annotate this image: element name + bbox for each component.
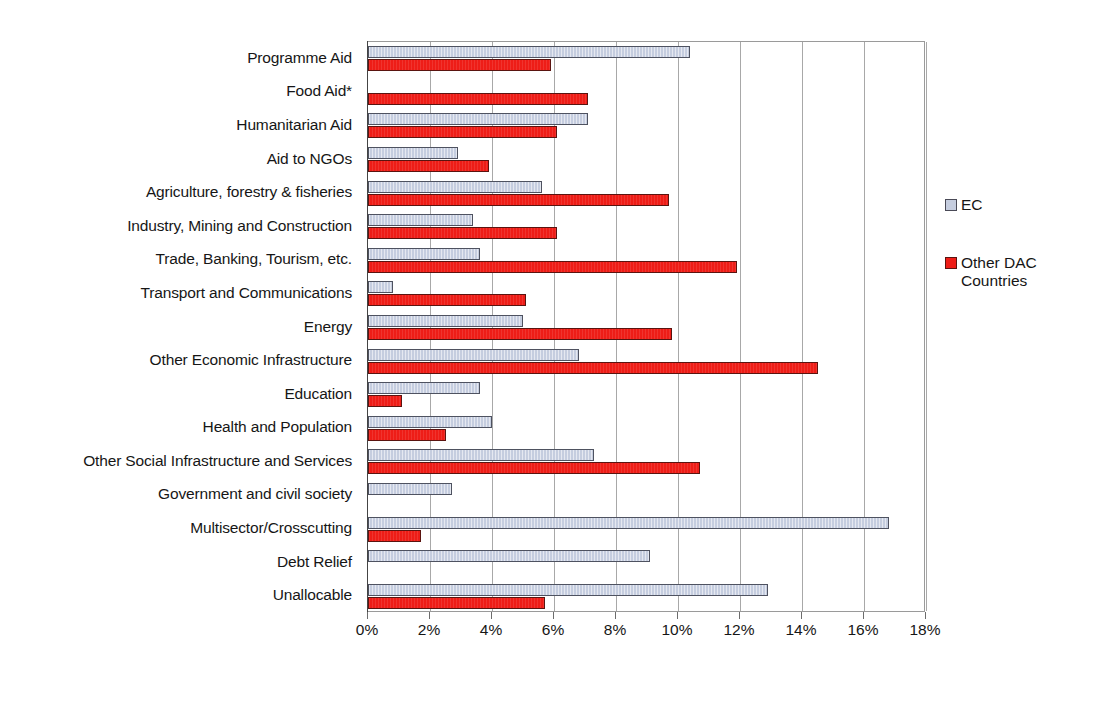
y-axis-label: Food Aid* [286,83,352,99]
x-axis-tick [863,612,864,619]
bar-ec [368,449,594,461]
y-axis-label: Aid to NGOs [267,151,352,167]
bar-ec [368,181,542,193]
y-axis-label: Education [284,386,352,402]
legend-label-other-dac-countries: Other DAC Countries [961,254,1037,290]
bar-group [368,109,924,143]
bar-ec [368,113,588,125]
y-axis-label: Programme Aid [247,50,352,66]
x-axis-tick [615,612,616,619]
bar-group [368,210,924,244]
bar-other-dac-countries [368,362,818,374]
x-axis-tick [429,612,430,619]
bar-group [368,344,924,378]
x-axis-tick [491,612,492,619]
bar-group [368,244,924,278]
bar-ec [368,315,523,327]
bar-group [368,546,924,580]
y-axis-label: Other Economic Infrastructure [150,352,352,368]
bar-group [368,479,924,513]
x-axis-tick [367,612,368,619]
bar-other-dac-countries [368,126,557,138]
x-axis-tick-label: 0% [356,622,378,638]
bar-other-dac-countries [368,59,551,71]
y-axis-label: Agriculture, forestry & fisheries [146,184,352,200]
bar-other-dac-countries [368,194,669,206]
bar-other-dac-countries [368,429,446,441]
bar-group [368,143,924,177]
plot-area [367,41,925,612]
bar-group [368,176,924,210]
bar-group [368,311,924,345]
bar-ec [368,349,579,361]
x-axis-tick [677,612,678,619]
legend-label-ec: EC [961,196,983,214]
bar-ec [368,584,768,596]
bar-other-dac-countries [368,93,588,105]
bar-other-dac-countries [368,160,489,172]
legend-item-ec: EC [945,196,983,214]
y-axis-label: Government and civil society [158,486,352,502]
x-axis-tick-label: 16% [847,622,878,638]
y-axis-label: Trade, Banking, Tourism, etc. [156,251,352,267]
bar-ec [368,382,480,394]
bar-ec [368,46,690,58]
bar-ec [368,416,492,428]
bar-ec [368,147,458,159]
y-axis-label: Humanitarian Aid [236,117,352,133]
x-axis-tick-label: 10% [661,622,692,638]
bar-other-dac-countries [368,261,737,273]
x-axis-tick-label: 6% [542,622,564,638]
bar-other-dac-countries [368,395,402,407]
bar-other-dac-countries [368,227,557,239]
x-axis-tick-label: 4% [480,622,502,638]
bar-group [368,277,924,311]
bar-group [368,76,924,110]
y-axis-label: Other Social Infrastructure and Services [83,453,352,469]
bar-other-dac-countries [368,462,700,474]
bar-other-dac-countries [368,597,545,609]
y-axis-label: Unallocable [273,587,352,603]
bar-chart: Programme AidFood Aid*Humanitarian AidAi… [0,0,1110,701]
x-axis-tick-label: 8% [604,622,626,638]
x-axis-tick [553,612,554,619]
x-axis-ticks [367,612,925,620]
y-axis-label: Debt Relief [277,554,352,570]
x-axis-tick-label: 2% [418,622,440,638]
bar-ec [368,214,473,226]
bar-other-dac-countries [368,328,672,340]
bar-ec [368,517,889,529]
dac-swatch-icon [945,257,957,269]
y-axis-label: Transport and Communications [141,285,352,301]
y-axis-label: Health and Population [203,419,352,435]
bar-group [368,445,924,479]
x-axis-tick-label: 14% [785,622,816,638]
bar-ec [368,483,452,495]
bar-other-dac-countries [368,530,421,542]
x-axis-tick [801,612,802,619]
bar-group [368,378,924,412]
x-axis-tick [739,612,740,619]
y-axis-category-labels: Programme AidFood Aid*Humanitarian AidAi… [0,41,360,612]
bar-group [368,411,924,445]
bar-other-dac-countries [368,294,526,306]
x-axis-tick-label: 12% [723,622,754,638]
bar-ec [368,248,480,260]
bar-ec [368,550,650,562]
y-axis-label: Energy [304,319,352,335]
y-axis-label: Multisector/Crosscutting [190,520,352,536]
legend-item-other-dac-countries: Other DAC Countries [945,254,1037,290]
x-axis-tick-label: 18% [909,622,940,638]
ec-swatch-icon [945,199,957,211]
bar-group [368,579,924,613]
bar-group [368,512,924,546]
bar-group [368,42,924,76]
bar-ec [368,281,393,293]
y-axis-label: Industry, Mining and Construction [127,218,352,234]
gridline [926,42,927,611]
x-axis-tick [925,612,926,619]
